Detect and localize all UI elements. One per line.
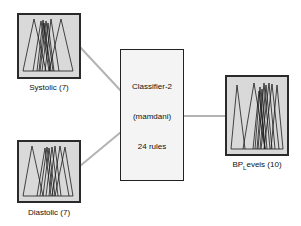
rule-count: 24 rules: [121, 142, 183, 151]
membership-functions-icon: [19, 15, 79, 77]
input-systolic-label: Systolic (7): [17, 83, 81, 92]
membership-functions-icon: [19, 142, 79, 201]
input-diastolic-block[interactable]: [17, 140, 81, 203]
fis-diagram: Systolic (7) Diastolic (7) Classifier-2 …: [0, 0, 301, 226]
output-label-main: BP: [232, 160, 243, 169]
connector-diastolic: [80, 132, 121, 166]
system-type: (mamdani): [121, 112, 183, 121]
membership-functions-icon: [227, 77, 287, 154]
output-label-rest: evels (10): [246, 160, 281, 169]
connector-systolic: [80, 47, 121, 91]
system-name: Classifier-2: [121, 82, 183, 91]
fis-system-block[interactable]: Classifier-2 (mamdani) 24 rules: [120, 49, 184, 181]
input-diastolic-label: Diastolic (7): [17, 208, 81, 217]
input-systolic-block[interactable]: [17, 13, 81, 79]
output-bp-levels-block[interactable]: [225, 75, 289, 156]
output-bp-levels-label: BPLevels (10): [220, 160, 294, 171]
